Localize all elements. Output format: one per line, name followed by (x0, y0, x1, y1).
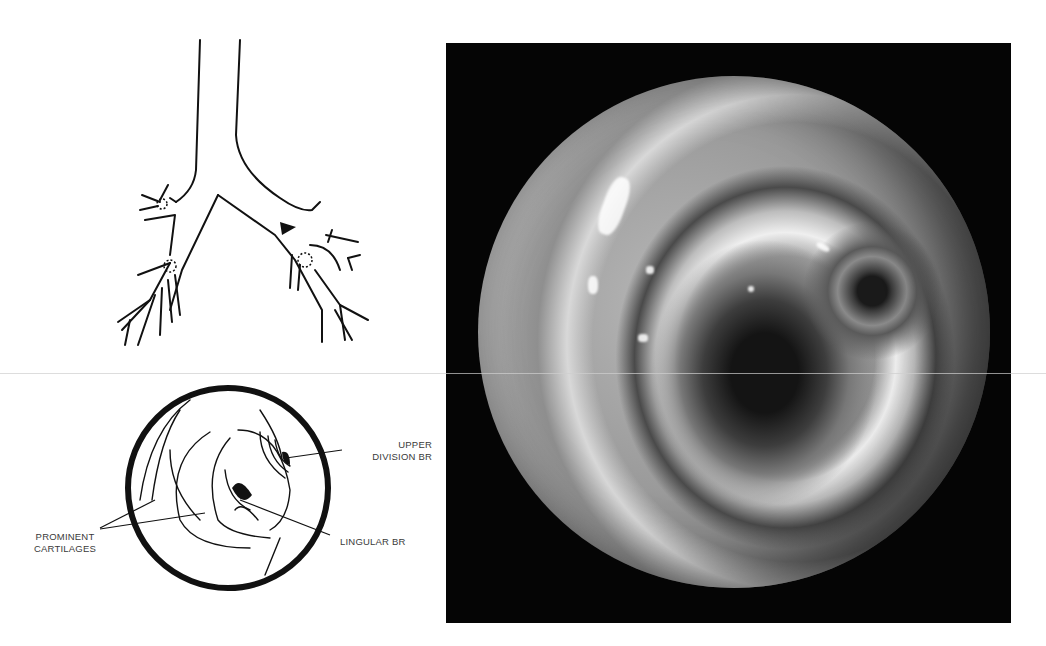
arrow-marker-icon (280, 222, 296, 235)
endoscopic-view-schematic (110, 370, 350, 610)
scope-view-circle (478, 76, 990, 588)
cartilages-leader-lines (95, 495, 225, 535)
lingular-label: LINGULAR BR (340, 536, 406, 548)
bronchial-tree-diagram (100, 30, 380, 370)
bronchoscopic-photo (446, 43, 1011, 623)
cartilages-label: PROMINENT CARTILAGES (30, 531, 100, 555)
upper-division-label: UPPER DIVISION BR (340, 439, 432, 463)
scan-line-artifact (0, 373, 1046, 374)
